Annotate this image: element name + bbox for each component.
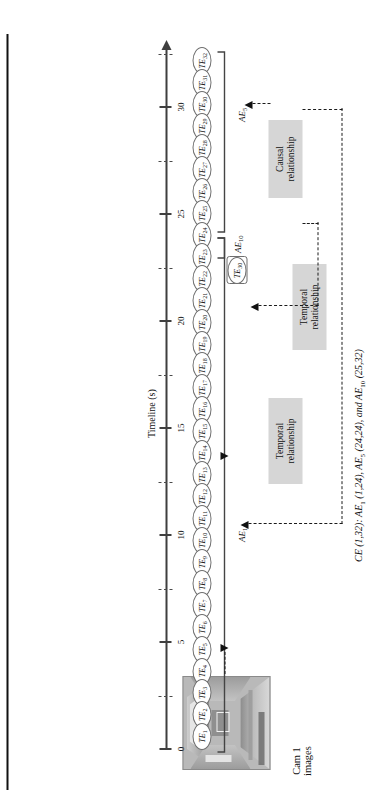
te-event-prefix: TE [197, 190, 206, 199]
te-event-sub: 13 [202, 467, 208, 473]
axis-tick-major [159, 748, 171, 750]
temporal-rel-2-line1: Temporal [298, 285, 309, 330]
photo-floor-marking [258, 712, 264, 765]
te-event-sub: 1 [202, 730, 208, 733]
te-event-sub: 3 [202, 687, 208, 690]
ae5-label-text: AE [236, 111, 246, 122]
te30-callout-ellipse: TE30 [227, 257, 246, 284]
te-event-sub: 18 [202, 358, 208, 364]
axis-tick-major [159, 641, 171, 643]
te-event-prefix: TE [197, 59, 206, 68]
te-event-sub: 26 [202, 184, 208, 190]
te-event-sub: 15 [202, 424, 208, 430]
rotated-figure-wrapper: Cam 1 images [0, 0, 383, 790]
arrow-photo2 [220, 452, 228, 460]
te-event-prefix: TE [197, 168, 206, 177]
te-event-sub: 9 [202, 556, 208, 559]
rel-arrow-to-ae5 [244, 101, 252, 109]
te-event-sub: 27 [202, 162, 208, 168]
brace-ae1 [215, 234, 231, 754]
te-event-prefix: TE [197, 364, 206, 373]
figure-caption: CE (1,32): AE1 (1,24), AE5 (24,24), and … [352, 349, 366, 562]
te-event-sub: 21 [202, 293, 208, 299]
axis-tick-label: 5 [175, 631, 185, 653]
caption-ae1-range: (1,24), [352, 472, 363, 499]
te-event-prefix: TE [197, 581, 206, 590]
ae10-label: AE10 [232, 236, 244, 254]
timeline-axis-line [165, 50, 167, 750]
te-event-sub: 23 [202, 249, 208, 255]
te-event-prefix: TE [197, 408, 206, 417]
rel-connector-v-left [248, 523, 342, 524]
te-event-sub: 28 [202, 140, 208, 146]
rel-connector-v-mid2 [258, 305, 318, 306]
ae5-label: AE5 [236, 108, 248, 122]
axis-tick-label: 20 [175, 310, 185, 332]
figure-page: Cam 1 images [0, 0, 383, 790]
column-rule-top [6, 34, 8, 790]
te-event-sub: 32 [202, 53, 208, 59]
connector-photo1 [224, 652, 225, 674]
te30-sub: 30 [237, 263, 243, 269]
te-event-sub: 20 [202, 315, 208, 321]
causal-rel-line1: Causal [274, 137, 285, 182]
axis-tick-label: 0 [175, 738, 185, 760]
te-event-prefix: TE [197, 733, 206, 742]
te-event-prefix: TE [197, 103, 206, 112]
te-event-prefix: TE [197, 430, 206, 439]
ae10-label-text: AE [232, 242, 242, 253]
caption-ae5-range: (24,24), and [352, 402, 363, 451]
te-event-prefix: TE [197, 624, 206, 633]
ae1-label-text: AE [236, 531, 246, 542]
te-event-prefix: TE [197, 712, 206, 721]
axis-tick-minor [158, 482, 172, 483]
axis-tick-major [159, 427, 171, 429]
te-event-sub: 11 [202, 511, 208, 517]
te-event-sub: 31 [202, 75, 208, 81]
te-event-sub: 22 [202, 271, 208, 277]
brace-ae10 [215, 48, 231, 234]
rel-connector-v-ae5 [252, 103, 270, 104]
axis-tick-minor [158, 161, 172, 162]
te-event-sub: 2 [202, 709, 208, 712]
axis-tick-major [159, 534, 171, 536]
caption-ae10-range: (25,32) [352, 349, 363, 378]
caption-ae1: AE [352, 505, 363, 517]
te-event-prefix: TE [197, 299, 206, 308]
rel-connector-v-mid [302, 223, 318, 224]
te-event-prefix: TE [197, 321, 206, 330]
caption-ce: CE [352, 549, 363, 562]
te-event-prefix: TE [197, 668, 206, 677]
rel-connector-v-right [302, 109, 342, 110]
te-event-sub: 25 [202, 206, 208, 212]
temporal-relationship-box-1: Temporal relationship [268, 398, 302, 484]
arrow-photo1 [220, 644, 228, 652]
axis-tick-label: 10 [175, 524, 185, 546]
caption-ae10: AE [352, 388, 363, 400]
timeline-axis-arrow [161, 40, 171, 50]
axis-tick-label: 15 [175, 417, 185, 439]
te-event-prefix: TE [197, 386, 206, 395]
te-event-sub: 10 [202, 533, 208, 539]
caption-ae5-sub: 5 [358, 454, 366, 458]
caption-ce-range: (1,32): [352, 519, 363, 547]
te-event-prefix: TE [197, 517, 206, 526]
ae1-label: AE1 [236, 528, 248, 542]
axis-tick-minor [158, 696, 172, 697]
te-event-prefix: TE [197, 690, 206, 699]
te-event-sub: 6 [202, 621, 208, 624]
te-event-prefix: TE [197, 212, 206, 221]
axis-tick-minor [158, 375, 172, 376]
axis-tick-label: 30 [175, 96, 185, 118]
figure-canvas: Cam 1 images [0, 0, 383, 790]
te-event-prefix: TE [197, 124, 206, 133]
te-event-sub: 16 [202, 402, 208, 408]
causal-rel-line2: relationship [285, 137, 296, 182]
axis-tick-minor [158, 589, 172, 590]
cam-images-label-line2: images [301, 738, 312, 784]
temporal-rel-1-line1: Temporal [274, 419, 285, 464]
rel-arrow-to-ae10 [250, 303, 258, 311]
te-event-prefix: TE [197, 539, 206, 548]
cam-images-label-line1: Cam 1 [290, 738, 301, 784]
te-event-sub: 30 [202, 97, 208, 103]
